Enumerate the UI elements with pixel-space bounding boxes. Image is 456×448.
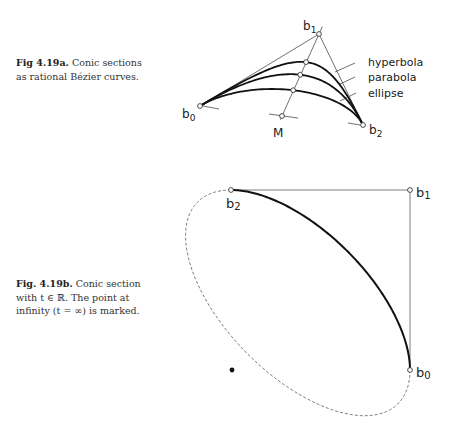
label-b0-b: b0 xyxy=(416,365,431,381)
conic-solid-arc xyxy=(231,190,410,370)
conic-dashed-arc xyxy=(186,190,410,416)
figures-canvas: hyperbola parabola ellipse b0 b1 b2 M b2… xyxy=(0,0,456,448)
infinity-point-marker xyxy=(230,368,235,373)
label-b1-a: b1 xyxy=(303,19,316,35)
control-polygon-b xyxy=(231,190,410,370)
point-labels-a: b0 b1 b2 M xyxy=(182,19,382,140)
label-b1-b: b1 xyxy=(416,185,431,201)
control-polygon xyxy=(200,27,363,125)
figure-b-diagram: b2 b1 b0 xyxy=(186,185,431,416)
label-b0-a: b0 xyxy=(182,107,196,123)
label-parabola: parabola xyxy=(368,71,417,84)
point-labels-b: b2 b1 b0 xyxy=(226,185,431,381)
control-points-b xyxy=(229,188,413,373)
curve-labels: hyperbola parabola ellipse xyxy=(368,56,423,100)
label-hyperbola: hyperbola xyxy=(368,56,423,69)
figure-a-diagram: hyperbola parabola ellipse b0 b1 b2 M xyxy=(182,19,423,140)
label-M: M xyxy=(273,126,283,140)
control-points-a xyxy=(198,32,366,128)
label-b2-b: b2 xyxy=(226,196,241,212)
label-b2-a: b2 xyxy=(369,123,382,139)
label-ellipse: ellipse xyxy=(368,87,404,100)
